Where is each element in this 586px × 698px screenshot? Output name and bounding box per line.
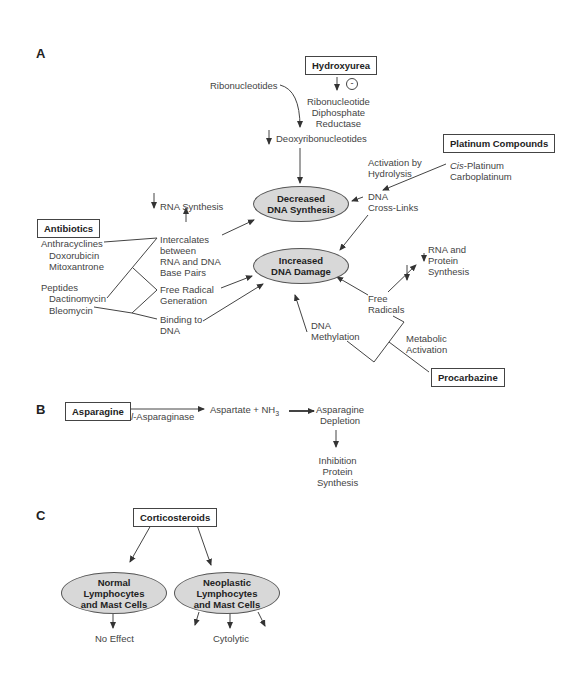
doxorubicin-label: Doxorubicin: [41, 250, 106, 262]
asparagine-depletion-label: Asparagine Depletion: [316, 404, 364, 426]
platinum-members: Cis-Platinum Carboplatinum: [450, 160, 512, 182]
intercalates-label: Intercalates between RNA and DNA Base Pa…: [160, 234, 221, 278]
products-text: Aspartate + NH: [210, 404, 275, 415]
decreased-line-2: DNA Synthesis: [267, 204, 335, 215]
asparagine-box: Asparagine: [65, 402, 131, 421]
decreased-dna-synthesis-node: Decreased DNA Synthesis: [253, 186, 349, 222]
panel-label-a: A: [36, 46, 45, 61]
metabolic-line-2: Activation: [406, 344, 447, 355]
cisplatin-label: Cis-Platinum: [450, 160, 512, 171]
binding-line-2: DNA: [160, 325, 202, 336]
decreased-line-1: Decreased: [277, 193, 325, 204]
neoplastic-line-3: and Mast Cells: [194, 599, 261, 610]
rna-synthesis-label: RNA Synthesis: [160, 201, 223, 212]
hydroxyurea-box: Hydroxyurea: [305, 56, 377, 75]
inhibit-icon: -: [346, 78, 358, 90]
procarbazine-box: Procarbazine: [431, 368, 505, 387]
rnap-line-2: Protein: [428, 255, 469, 266]
activation-hydrolysis-label: Activation by Hydrolysis: [368, 157, 422, 179]
metabolic-line-1: Metabolic: [406, 333, 447, 344]
meth-line-1: DNA: [311, 320, 360, 331]
activation-line-2: Hydrolysis: [368, 168, 422, 179]
bleomycin-label: Bleomycin: [41, 305, 106, 317]
rnap-line-3: Synthesis: [428, 266, 469, 277]
dactinomycin-label: Dactinomycin: [41, 293, 106, 305]
asparaginase-label: l-Asparaginase: [131, 411, 194, 422]
frg-line-1: Free Radical: [160, 284, 214, 295]
meth-line-2: Methylation: [311, 331, 360, 342]
free-radical-generation-label: Free Radical Generation: [160, 284, 214, 306]
corticosteroids-box: Corticosteroids: [133, 508, 217, 527]
cis-rest: -Platinum: [464, 160, 504, 171]
inhibition-line-2: Protein: [317, 466, 358, 477]
inhibition-line-3: Synthesis: [317, 477, 358, 488]
fr-line-1: Free: [368, 293, 404, 304]
rdr-line-2: Diphosphate: [307, 107, 370, 118]
crosslinks-line-1: DNA: [368, 191, 418, 202]
inhibition-line-1: Inhibition: [317, 455, 358, 466]
normal-lymphocytes-node: Normal Lymphocytes and Mast Cells: [61, 572, 167, 614]
rnap-line-1: RNA and: [428, 244, 469, 255]
enzyme-rest: -Asparaginase: [133, 411, 194, 422]
cytolytic-label: Cytolytic: [213, 633, 249, 644]
crosslinks-line-2: Cross-Links: [368, 202, 418, 213]
normal-line-2: Lymphocytes: [84, 588, 145, 599]
frg-line-2: Generation: [160, 295, 214, 306]
products-subscript: 3: [275, 410, 279, 417]
increased-line-2: DNA Damage: [271, 266, 331, 277]
free-radicals-label: Free Radicals: [368, 293, 404, 315]
rna-protein-synthesis-label: RNA and Protein Synthesis: [428, 244, 469, 277]
rdr-line-1: Ribonucleotide: [307, 96, 370, 107]
intercalates-line-2: between: [160, 245, 221, 256]
binding-to-dna-label: Binding to DNA: [160, 314, 202, 336]
antibiotic-members: Anthracyclines Doxorubicin Mitoxantrone …: [41, 238, 106, 316]
no-effect-label: No Effect: [95, 633, 134, 644]
rdr-line-3: Reductase: [307, 118, 370, 129]
intercalates-line-3: RNA and DNA: [160, 256, 221, 267]
aspartate-nh3-label: Aspartate + NH3: [210, 404, 279, 419]
mitoxantrone-label: Mitoxantrone: [41, 261, 106, 273]
depletion-line-1: Asparagine: [316, 404, 364, 415]
intercalates-line-4: Base Pairs: [160, 267, 221, 278]
dna-crosslinks-label: DNA Cross-Links: [368, 191, 418, 213]
intercalates-line-1: Intercalates: [160, 234, 221, 245]
cis-prefix: Cis: [450, 160, 464, 171]
peptides-label: Peptides: [41, 282, 106, 294]
deoxyribonucleotides-label: Deoxyribonucleotides: [276, 133, 367, 144]
rdr-label: Ribonucleotide Diphosphate Reductase: [307, 96, 370, 129]
metabolic-activation-label: Metabolic Activation: [406, 333, 447, 355]
inhibition-protein-synthesis-label: Inhibition Protein Synthesis: [317, 455, 358, 488]
ribonucleotides-label: Ribonucleotides: [210, 80, 278, 91]
antibiotics-box: Antibiotics: [37, 219, 100, 238]
panel-label-b: B: [36, 402, 45, 417]
increased-dna-damage-node: Increased DNA Damage: [253, 248, 349, 284]
dna-methylation-label: DNA Methylation: [311, 320, 360, 342]
depletion-line-2: Depletion: [316, 415, 364, 426]
normal-line-3: and Mast Cells: [81, 599, 148, 610]
binding-line-1: Binding to: [160, 314, 202, 325]
platinum-compounds-box: Platinum Compounds: [443, 134, 555, 153]
normal-line-1: Normal: [98, 577, 131, 588]
carboplatinum-label: Carboplatinum: [450, 171, 512, 182]
panel-label-c: C: [36, 508, 45, 523]
neoplastic-lymphocytes-node: Neoplastic Lymphocytes and Mast Cells: [174, 572, 280, 614]
neoplastic-line-1: Neoplastic: [203, 577, 251, 588]
increased-line-1: Increased: [279, 255, 323, 266]
activation-line-1: Activation by: [368, 157, 422, 168]
fr-line-2: Radicals: [368, 304, 404, 315]
neoplastic-line-2: Lymphocytes: [197, 588, 258, 599]
anthracyclines-label: Anthracyclines: [41, 238, 106, 250]
